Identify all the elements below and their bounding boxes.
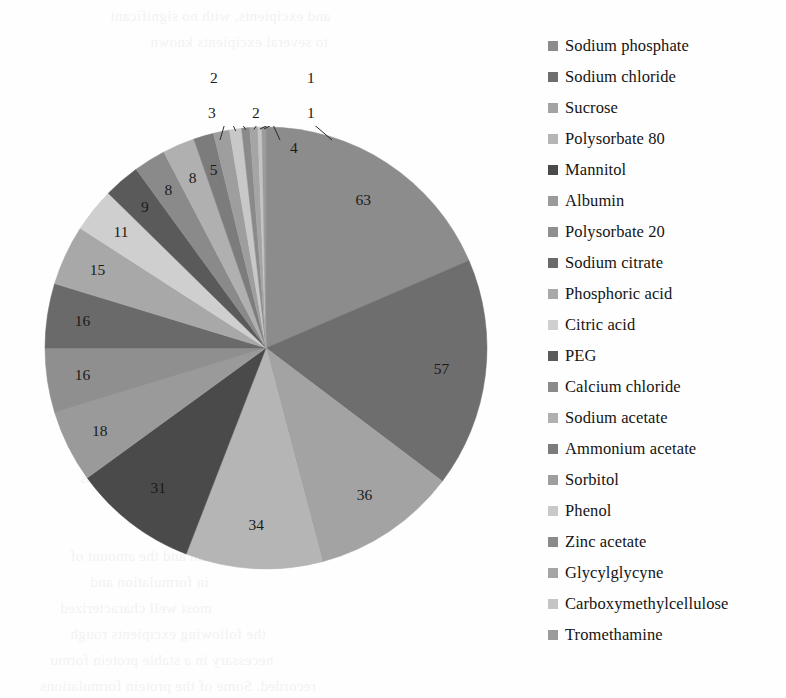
legend-item[interactable]: Mannitol xyxy=(548,154,784,185)
legend-item[interactable]: Phenol xyxy=(548,495,784,526)
legend-swatch-icon xyxy=(548,41,558,51)
legend-item[interactable]: Glycylglycyne xyxy=(548,557,784,588)
legend-item-label: Ammonium acetate xyxy=(565,439,696,459)
legend-item[interactable]: Albumin xyxy=(548,185,784,216)
pie-value-label: 8 xyxy=(189,169,197,186)
pie-value-label: 5 xyxy=(210,161,218,178)
legend-swatch-icon xyxy=(548,258,558,268)
bleed-text-line: the following excipients rough xyxy=(70,626,266,643)
legend-swatch-icon xyxy=(548,196,558,206)
pie-slices xyxy=(45,127,487,569)
legend-item-label: PEG xyxy=(565,346,596,366)
legend-swatch-icon xyxy=(548,351,558,361)
legend-item[interactable]: Sodium phosphate xyxy=(548,30,784,61)
legend-item-label: Phosphoric acid xyxy=(565,284,672,304)
pie-chart: 635736343118161615119885 xyxy=(44,126,488,570)
legend-swatch-icon xyxy=(548,506,558,516)
legend-item[interactable]: Phosphoric acid xyxy=(548,278,784,309)
pie-value-label: 57 xyxy=(434,360,450,377)
pie-value-label: 31 xyxy=(150,479,166,496)
pie-value-label: 16 xyxy=(75,366,91,383)
legend-item-label: Tromethamine xyxy=(565,625,663,645)
callout-label-2b: 2 xyxy=(252,105,260,121)
callout-label-3: 3 xyxy=(208,105,216,121)
legend-swatch-icon xyxy=(548,227,558,237)
bleed-text-line: and excipients, with no significant xyxy=(110,8,330,25)
pie-value-label: 15 xyxy=(90,261,106,278)
legend-swatch-icon xyxy=(548,599,558,609)
callout-label-4: 4 xyxy=(290,140,298,156)
pie-value-label: 8 xyxy=(164,181,172,198)
pie-value-label: 11 xyxy=(114,223,129,240)
bleed-text-line: necessary in a stable protein formu xyxy=(50,652,274,669)
legend-item[interactable]: Citric acid xyxy=(548,309,784,340)
bleed-text-line: most well characterized xyxy=(60,600,212,617)
legend-item[interactable]: PEG xyxy=(548,340,784,371)
bleed-text-line: recorded. Some of the protein formulatio… xyxy=(40,678,316,695)
legend-swatch-icon xyxy=(548,413,558,423)
bleed-text-line: to several excipients known xyxy=(150,34,328,51)
legend-item-label: Carboxymethylcellulose xyxy=(565,594,729,614)
legend-item-label: Phenol xyxy=(565,501,611,521)
legend-item-label: Sodium citrate xyxy=(565,253,663,273)
legend-swatch-icon xyxy=(548,320,558,330)
callout-label-2a: 2 xyxy=(210,70,218,86)
legend-item-label: Glycylglycyne xyxy=(565,563,663,583)
legend-item-label: Mannitol xyxy=(565,160,626,180)
chart-legend: Sodium phosphateSodium chlorideSucrosePo… xyxy=(548,30,784,650)
legend-swatch-icon xyxy=(548,72,558,82)
legend-item-label: Calcium chloride xyxy=(565,377,681,397)
legend-item-label: Sorbitol xyxy=(565,470,619,490)
legend-swatch-icon xyxy=(548,537,558,547)
pie-value-label: 36 xyxy=(357,486,373,503)
legend-item-label: Sodium acetate xyxy=(565,408,668,428)
legend-swatch-icon xyxy=(548,165,558,175)
callout-label-1a: 1 xyxy=(307,70,315,86)
legend-item[interactable]: Sorbitol xyxy=(548,464,784,495)
pie-value-label: 9 xyxy=(141,198,149,215)
pie-value-label: 63 xyxy=(355,191,371,208)
legend-swatch-icon xyxy=(548,382,558,392)
legend-item-label: Sodium chloride xyxy=(565,67,676,87)
legend-item-label: Sodium phosphate xyxy=(565,36,689,56)
legend-swatch-icon xyxy=(548,630,558,640)
pie-value-label: 16 xyxy=(75,312,91,329)
legend-item[interactable]: Calcium chloride xyxy=(548,371,784,402)
legend-swatch-icon xyxy=(548,289,558,299)
pie-chart-svg: 635736343118161615119885 xyxy=(44,126,488,570)
legend-item[interactable]: Tromethamine xyxy=(548,619,784,650)
legend-item-label: Zinc acetate xyxy=(565,532,646,552)
legend-item[interactable]: Polysorbate 20 xyxy=(548,216,784,247)
legend-item[interactable]: Sodium citrate xyxy=(548,247,784,278)
legend-item-label: Polysorbate 80 xyxy=(565,129,665,149)
legend-item-label: Albumin xyxy=(565,191,624,211)
legend-item[interactable]: Sodium chloride xyxy=(548,61,784,92)
legend-swatch-icon xyxy=(548,568,558,578)
legend-item[interactable]: Sodium acetate xyxy=(548,402,784,433)
pie-value-label: 18 xyxy=(92,422,108,439)
legend-item-label: Citric acid xyxy=(565,315,635,335)
legend-item[interactable]: Polysorbate 80 xyxy=(548,123,784,154)
legend-item-label: Sucrose xyxy=(565,98,618,118)
legend-item[interactable]: Sucrose xyxy=(548,92,784,123)
legend-swatch-icon xyxy=(548,444,558,454)
callout-label-1b: 1 xyxy=(307,105,315,121)
legend-item-label: Polysorbate 20 xyxy=(565,222,665,242)
figure-page: and excipients, with no significant to s… xyxy=(0,0,786,698)
bleed-text-line: in formulation and xyxy=(90,574,209,591)
legend-swatch-icon xyxy=(548,475,558,485)
legend-swatch-icon xyxy=(548,103,558,113)
legend-item[interactable]: Carboxymethylcellulose xyxy=(548,588,784,619)
legend-item[interactable]: Zinc acetate xyxy=(548,526,784,557)
legend-item[interactable]: Ammonium acetate xyxy=(548,433,784,464)
legend-swatch-icon xyxy=(548,134,558,144)
pie-value-label: 34 xyxy=(248,516,264,533)
